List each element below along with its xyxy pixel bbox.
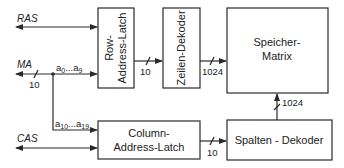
zeilen-dekoder-block: Zeilen-Dekoder: [163, 8, 200, 88]
spalten-dekoder-block: Spalten - Dekoder: [227, 120, 332, 160]
ras-signal: RAS: [16, 13, 97, 27]
row-address-bits: a0...a9: [56, 62, 82, 74]
ma-width-label: 10: [29, 79, 40, 90]
dram-address-diagram: RAS MA 10 a0...a9 a10...a19 CAS Row- Add…: [0, 0, 344, 168]
speicher-matrix-label-1: Speicher-: [253, 36, 300, 48]
ras-label: RAS: [17, 13, 38, 24]
zeilen-out-width: 1024: [202, 66, 223, 77]
column-latch-label-1: Column-: [128, 127, 170, 139]
row-out-width: 10: [140, 66, 151, 77]
row-latch-label-1: Row-: [103, 35, 115, 61]
column-address-bits: a10...a19: [55, 118, 89, 130]
zeilen-dekoder-label: Zeilen-Dekoder: [175, 10, 187, 86]
column-latch-label-2: Address-Latch: [114, 141, 185, 153]
speicher-matrix-block: Speicher- Matrix: [227, 8, 328, 93]
speicher-matrix-label-2: Matrix: [262, 50, 292, 62]
ma-signal: MA 10 a0...a9 a10...a19: [16, 59, 97, 130]
cas-label: CAS: [17, 133, 38, 144]
column-address-latch-block: Column- Address-Latch: [98, 121, 200, 159]
spalten-dekoder-label: Spalten - Dekoder: [235, 134, 324, 146]
cas-signal: CAS: [16, 133, 97, 148]
row-latch-label-2: Address-Latch: [116, 13, 128, 84]
ma-label: MA: [17, 59, 32, 70]
spalten-out-width: 1024: [282, 97, 303, 108]
column-out-width: 10: [207, 147, 218, 158]
row-address-latch-block: Row- Address-Latch: [98, 8, 134, 88]
